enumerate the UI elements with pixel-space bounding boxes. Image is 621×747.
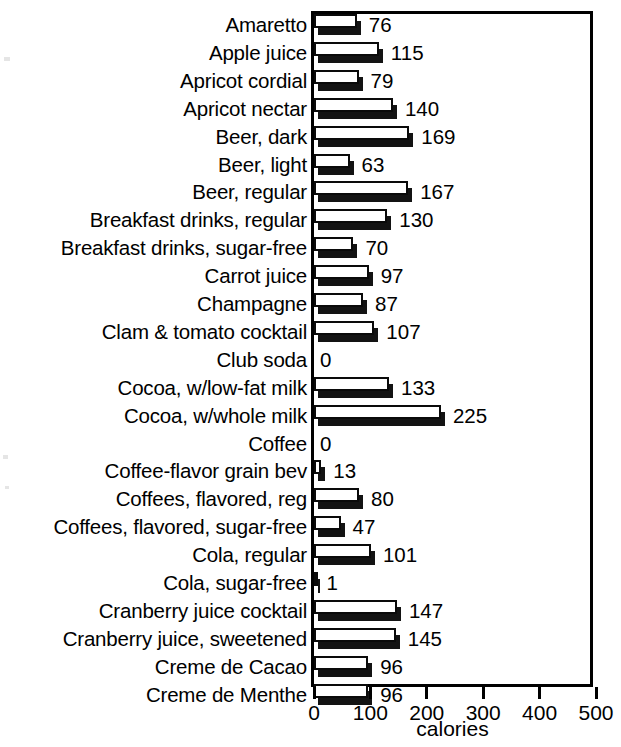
category-label: Beer, dark [216, 123, 307, 151]
category-label: Champagne [197, 290, 307, 318]
bar-face [314, 293, 363, 307]
bar-value-label: 101 [383, 541, 417, 569]
bar-shadow [318, 579, 320, 593]
bar-row: Cranberry juice, sweetened145 [0, 625, 621, 653]
category-label: Amaretto [225, 11, 307, 39]
bar-value-label: 107 [386, 318, 420, 346]
bar-value-label: 97 [381, 262, 404, 290]
category-label: Cola, sugar-free [163, 569, 307, 597]
category-label: Club soda [216, 346, 307, 374]
bar [314, 405, 447, 429]
bar-row: Coffees, flavored, reg80 [0, 485, 621, 513]
bar-value-label: 63 [362, 151, 385, 179]
category-label: Beer, light [218, 151, 307, 179]
bar-face [314, 460, 321, 474]
bar-row: Cola, sugar-free1 [0, 569, 621, 597]
bar-row: Beer, light63 [0, 151, 621, 179]
bar-row: Champagne87 [0, 290, 621, 318]
bar-face [314, 516, 341, 530]
category-label: Cola, regular [192, 541, 307, 569]
bar-face [314, 126, 409, 140]
bar-face [314, 544, 371, 558]
bar [314, 14, 363, 38]
bar-face [314, 572, 318, 586]
bar [314, 126, 415, 150]
category-label: Apricot cordial [180, 67, 307, 95]
category-label: Coffees, flavored, sugar-free [53, 513, 307, 541]
category-label: Cocoa, w/whole milk [124, 402, 307, 430]
bar-value-label: 80 [371, 485, 394, 513]
bar-row: Beer, dark169 [0, 123, 621, 151]
bar-row: Clam & tomato cocktail107 [0, 318, 621, 346]
category-label: Coffees, flavored, reg [116, 485, 307, 513]
category-label: Coffee-flavor grain bev [105, 457, 307, 485]
bar-value-label: 47 [353, 513, 376, 541]
x-axis-tick [369, 687, 372, 699]
category-label: Carrot juice [205, 262, 307, 290]
bar-value-label: 147 [409, 597, 443, 625]
bar-face [314, 209, 387, 223]
bar-face [314, 14, 357, 28]
category-label: Cranberry juice cocktail [99, 597, 307, 625]
bar-row: Cola, regular101 [0, 541, 621, 569]
bar [314, 70, 365, 94]
x-axis-tick [482, 687, 485, 699]
bar [314, 42, 385, 66]
bar-value-label: 79 [371, 67, 394, 95]
bar-value-label: 0 [320, 430, 331, 458]
bar-value-label: 225 [453, 402, 487, 430]
category-label: Coffee [248, 430, 307, 458]
bar [314, 237, 359, 261]
bar-value-label: 145 [408, 625, 442, 653]
bar-face [314, 70, 359, 84]
category-label: Clam & tomato cocktail [102, 318, 307, 346]
category-label: Apricot nectar [183, 95, 307, 123]
bar-row: Club soda0 [0, 346, 621, 374]
bar [314, 98, 399, 122]
bar-row: Coffee-flavor grain bev13 [0, 457, 621, 485]
bar-value-label: 87 [375, 290, 398, 318]
x-axis-tick [595, 687, 598, 699]
bar-row: Cocoa, w/low-fat milk133 [0, 374, 621, 402]
bar [314, 516, 347, 540]
bar-rows: Amaretto76Apple juice115Apricot cordial7… [0, 0, 621, 747]
bar [314, 572, 321, 596]
bar [314, 181, 414, 205]
bar [314, 209, 393, 233]
bar-row: Beer, regular167 [0, 178, 621, 206]
category-label: Cranberry juice, sweetened [63, 625, 307, 653]
category-label: Apple juice [209, 39, 307, 67]
category-label: Cocoa, w/low-fat milk [118, 374, 307, 402]
bar-face [314, 488, 359, 502]
bar-value-label: 1 [327, 569, 338, 597]
bar-row: Coffee0 [0, 430, 621, 458]
bar-value-label: 169 [421, 123, 455, 151]
bar [314, 154, 356, 178]
bar [314, 293, 369, 317]
bar-face [314, 98, 393, 112]
bar [314, 600, 403, 624]
category-label: Beer, regular [192, 178, 307, 206]
bar [314, 321, 380, 345]
bar-face [314, 42, 379, 56]
bar-face [314, 656, 368, 670]
bar-row: Apple juice115 [0, 39, 621, 67]
bar-row: Cranberry juice cocktail147 [0, 597, 621, 625]
bar-value-label: 133 [401, 374, 435, 402]
bar-row: Cocoa, w/whole milk225 [0, 402, 621, 430]
bar-row: Creme de Cacao96 [0, 653, 621, 681]
bar-face [314, 237, 353, 251]
category-label: Breakfast drinks, regular [90, 206, 307, 234]
bar [314, 488, 365, 512]
bar [314, 544, 377, 568]
bar-face [314, 377, 389, 391]
bar-value-label: 167 [420, 178, 454, 206]
bar-value-label: 130 [399, 206, 433, 234]
bar-row: Apricot nectar140 [0, 95, 621, 123]
bar-face [314, 265, 369, 279]
bar-row: Coffees, flavored, sugar-free47 [0, 513, 621, 541]
bar-row: Breakfast drinks, sugar-free70 [0, 234, 621, 262]
calories-bar-chart: Amaretto76Apple juice115Apricot cordial7… [0, 0, 621, 747]
x-axis-title: calories [311, 716, 594, 742]
bar-value-label: 140 [405, 95, 439, 123]
